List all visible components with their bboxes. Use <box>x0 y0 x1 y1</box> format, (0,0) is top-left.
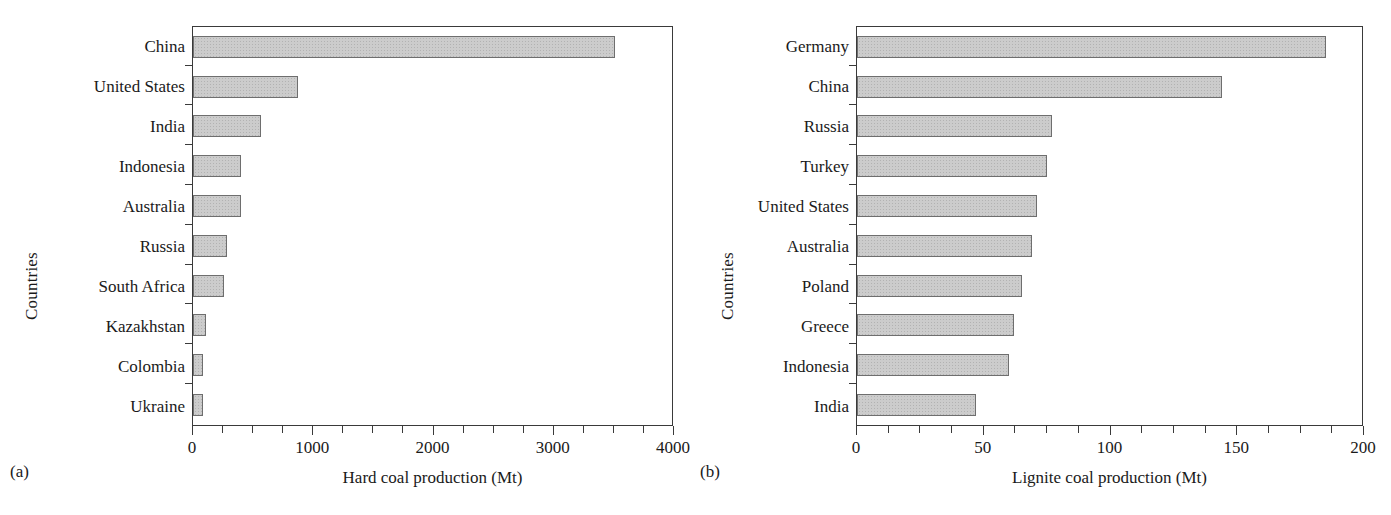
x-axis-minor-tick <box>919 426 920 433</box>
category-label: Australia <box>787 237 849 256</box>
category-label: Ukraine <box>130 397 185 416</box>
y-axis-tick <box>185 104 193 105</box>
bar <box>857 155 1047 177</box>
category-label: Russia <box>804 117 849 136</box>
bar <box>193 275 224 297</box>
bar <box>857 235 1032 257</box>
bar-row <box>193 394 672 416</box>
y-axis-tick <box>849 264 857 265</box>
x-axis-major-tick <box>1110 426 1111 435</box>
x-axis-tick-label: 100 <box>1097 438 1123 458</box>
bar-row <box>193 115 672 137</box>
y-axis-tick <box>185 303 193 304</box>
bar-row <box>857 394 1362 416</box>
category-label: Germany <box>786 37 849 56</box>
x-axis-ticks-a <box>192 426 673 435</box>
x-axis-tick-label: 0 <box>188 438 197 458</box>
bar <box>857 195 1037 217</box>
bar <box>193 155 241 177</box>
y-axis-tick <box>849 303 857 304</box>
bar-row <box>857 195 1362 217</box>
x-axis-tick-label: 1000 <box>295 438 329 458</box>
x-axis-minor-tick <box>888 426 889 433</box>
x-axis-tick-labels-a: 01000200030004000 <box>192 438 673 460</box>
x-axis-minor-tick <box>493 426 494 433</box>
bar <box>857 314 1014 336</box>
category-label: Turkey <box>801 157 850 176</box>
category-label: Australia <box>123 197 185 216</box>
x-axis-minor-tick <box>1331 426 1332 433</box>
y-axis-tick <box>185 383 193 384</box>
bar-row <box>193 36 672 58</box>
panel-tag-b: (b) <box>700 462 720 482</box>
x-axis-major-tick <box>192 426 193 435</box>
bar-row <box>193 275 672 297</box>
plot-area-b <box>856 26 1363 426</box>
bar <box>857 36 1326 58</box>
y-axis-tick <box>185 224 193 225</box>
x-axis-major-tick <box>1363 426 1364 435</box>
bar-row <box>857 155 1362 177</box>
y-axis-tick <box>849 144 857 145</box>
x-axis-minor-tick <box>1141 426 1142 433</box>
y-axis-tick <box>849 184 857 185</box>
x-axis-minor-tick <box>1173 426 1174 433</box>
bar-row <box>193 76 672 98</box>
category-label: India <box>814 397 849 416</box>
bar <box>857 76 1222 98</box>
plot-area-a <box>192 26 673 426</box>
y-axis-tick <box>849 343 857 344</box>
x-axis-tick-label: 150 <box>1224 438 1250 458</box>
category-label: China <box>144 37 185 56</box>
bar <box>857 115 1052 137</box>
category-label: India <box>150 117 185 136</box>
bar <box>193 195 241 217</box>
bar-row <box>193 195 672 217</box>
x-axis-major-tick <box>673 426 674 435</box>
x-axis-minor-tick <box>1300 426 1301 433</box>
x-axis-tick-labels-b: 050100150200 <box>856 438 1363 460</box>
category-label: Poland <box>802 277 849 296</box>
bar-row <box>857 235 1362 257</box>
bar <box>857 275 1022 297</box>
x-axis-title-a: Hard coal production (Mt) <box>192 468 673 488</box>
x-axis-major-tick <box>553 426 554 435</box>
category-label: Indonesia <box>119 157 185 176</box>
bar-row <box>193 235 672 257</box>
category-label: Greece <box>801 317 849 336</box>
x-axis-major-tick <box>1236 426 1237 435</box>
x-axis-minor-tick <box>1268 426 1269 433</box>
category-labels-a: ChinaUnited StatesIndiaIndonesiaAustrali… <box>0 26 192 426</box>
x-axis-minor-tick <box>1046 426 1047 433</box>
bar <box>857 354 1009 376</box>
category-label: Indonesia <box>783 357 849 376</box>
x-axis-ticks-b <box>856 426 1363 435</box>
x-axis-minor-tick <box>282 426 283 433</box>
x-axis-minor-tick <box>523 426 524 433</box>
x-axis-minor-tick <box>463 426 464 433</box>
bar-row <box>193 155 672 177</box>
x-axis-major-tick <box>856 426 857 435</box>
y-axis-tick <box>185 184 193 185</box>
x-axis-tick-label: 4000 <box>656 438 690 458</box>
coal-production-figure: Countries ChinaUnited StatesIndiaIndones… <box>0 0 1391 515</box>
bar-row <box>857 36 1362 58</box>
x-axis-tick-label: 50 <box>974 438 991 458</box>
y-axis-tick <box>185 65 193 66</box>
y-axis-tick <box>185 264 193 265</box>
bars-b <box>857 27 1362 425</box>
category-label: Colombia <box>118 357 185 376</box>
bars-a <box>193 27 672 425</box>
x-axis-minor-tick <box>1078 426 1079 433</box>
y-axis-tick <box>849 383 857 384</box>
bar <box>857 394 976 416</box>
x-axis-minor-tick <box>613 426 614 433</box>
bar-row <box>193 314 672 336</box>
category-label: United States <box>94 77 185 96</box>
category-label: China <box>808 77 849 96</box>
category-label: United States <box>758 197 849 216</box>
x-axis-minor-tick <box>222 426 223 433</box>
x-axis-minor-tick <box>252 426 253 433</box>
category-label: Kazakhstan <box>106 317 185 336</box>
x-axis-major-tick <box>433 426 434 435</box>
